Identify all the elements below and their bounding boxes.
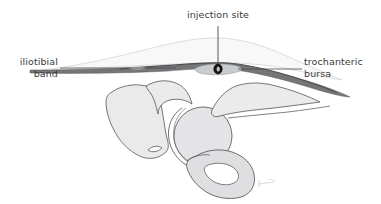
label-injection-site: injection site bbox=[160, 9, 276, 21]
greater-trochanter-shape bbox=[211, 83, 320, 117]
label-trochanteric-bursa: trochanteric bursa bbox=[304, 56, 380, 79]
artist-signature bbox=[258, 179, 276, 187]
hip-anatomy-illustration bbox=[0, 0, 381, 204]
skin-contour-shape bbox=[36, 38, 342, 80]
label-iliotibial-band: iliotibial band bbox=[4, 56, 58, 79]
injection-site-inner bbox=[217, 66, 220, 71]
